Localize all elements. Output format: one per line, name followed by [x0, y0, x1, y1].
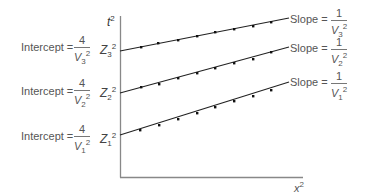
slope-fraction-2: 1 V22 [330, 37, 348, 68]
line-layer-1 [120, 82, 289, 135]
z3-label: Z32 [100, 43, 116, 59]
intercept-fraction-3: 4 V32 [73, 35, 91, 66]
z2-label: Z22 [100, 86, 116, 102]
x-axis-label: x2 [294, 180, 304, 194]
diagram-plot [0, 0, 368, 195]
intercept-label-3: Intercept = [21, 42, 73, 53]
slope-label-2: Slope = [290, 43, 328, 54]
line-layer-2 [120, 47, 289, 93]
line-layer-3 [120, 18, 289, 51]
slope-label-3: Slope = [290, 14, 328, 25]
slope-fraction-3: 1 V32 [330, 8, 348, 39]
y-axis-label: t2 [107, 14, 115, 29]
intercept-fraction-2: 4 V22 [73, 78, 91, 109]
z1-label: Z12 [100, 132, 116, 148]
intercept-fraction-1: 4 V12 [73, 124, 91, 155]
intercept-label-1: Intercept = [21, 131, 73, 142]
points-layer-1 [139, 89, 272, 131]
intercept-label-2: Intercept = [21, 86, 73, 97]
slope-fraction-1: 1 V12 [330, 71, 348, 102]
slope-label-1: Slope = [290, 77, 328, 88]
